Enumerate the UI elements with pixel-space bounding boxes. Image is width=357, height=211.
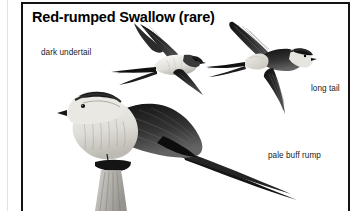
swallow-in-flight-underside	[111, 23, 206, 95]
callout-dark-undertail: dark undertail	[41, 48, 91, 57]
callout-long-tail: long tail	[311, 84, 340, 93]
illustration-plate: Red-rumped Swallow (rare)	[21, 2, 350, 211]
callout-pale-buff-rump: pale buff rump	[268, 151, 321, 160]
page-title: Red-rumped Swallow (rare)	[32, 9, 215, 25]
swallow-perched	[57, 91, 297, 211]
swallow-in-flight-upperside	[206, 22, 317, 114]
page-gutter-rule	[7, 0, 8, 211]
swallow-illustrations	[23, 4, 348, 211]
